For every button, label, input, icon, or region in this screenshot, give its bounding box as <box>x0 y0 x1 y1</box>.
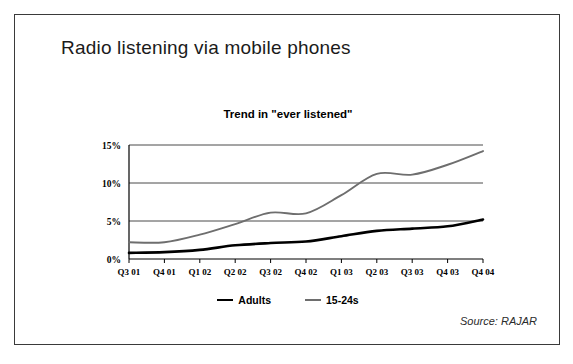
x-tick-label: Q4 01 <box>153 267 176 277</box>
y-tick-label: 10% <box>102 179 121 189</box>
source-note: Source: RAJAR <box>460 315 537 327</box>
x-tick-label: Q2 02 <box>224 267 247 277</box>
chart-legend: Adults 15-24s <box>15 294 561 306</box>
series-lines-group <box>129 151 483 253</box>
x-axis-tick-marks <box>129 259 483 263</box>
legend-item-adults: Adults <box>217 294 271 306</box>
y-tick-label: 15% <box>102 141 121 151</box>
legend-label-adults: Adults <box>238 294 271 306</box>
legend-item-15-24s: 15-24s <box>305 294 359 306</box>
legend-label-15-24s: 15-24s <box>326 294 359 306</box>
x-tick-label: Q4 04 <box>472 267 495 277</box>
legend-swatch-adults <box>217 299 233 301</box>
legend-swatch-15-24s <box>305 299 321 301</box>
series-line-15-24s <box>129 151 483 243</box>
y-tick-label: 0% <box>107 255 121 265</box>
x-tick-label: Q4 02 <box>295 267 318 277</box>
x-tick-label: Q2 03 <box>365 267 388 277</box>
x-tick-label: Q1 02 <box>188 267 211 277</box>
x-tick-label: Q3 03 <box>401 267 424 277</box>
x-axis-tick-labels: Q3 01Q4 01Q1 02Q2 02Q3 02Q4 02Q1 03Q2 03… <box>118 267 495 277</box>
y-axis-tick-labels: 0%5%10%15% <box>102 141 121 265</box>
x-tick-label: Q3 01 <box>118 267 141 277</box>
y-tick-label: 5% <box>107 217 121 227</box>
slide-frame: Radio listening via mobile phones Trend … <box>14 14 560 345</box>
x-tick-label: Q1 03 <box>330 267 353 277</box>
x-tick-label: Q3 02 <box>259 267 282 277</box>
x-tick-label: Q4 03 <box>436 267 459 277</box>
series-line-adults <box>129 219 483 252</box>
